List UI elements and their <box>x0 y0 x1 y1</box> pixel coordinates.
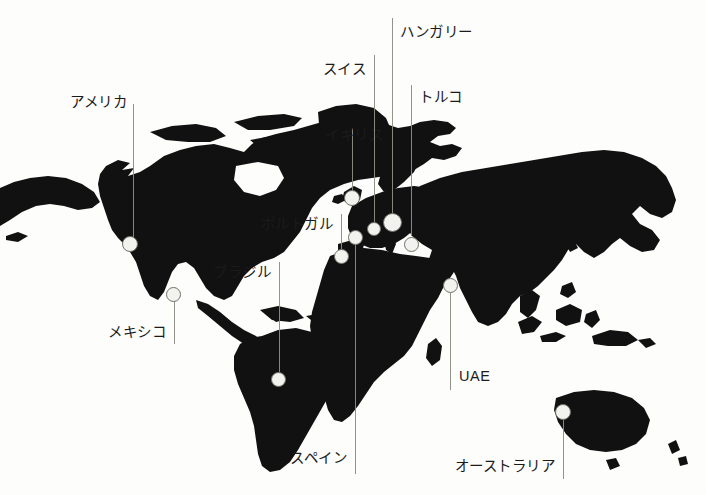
leader-line-america <box>133 104 134 238</box>
land-shapes <box>0 104 688 472</box>
map-label-turkey: トルコ <box>419 90 463 105</box>
map-label-uae: UAE <box>459 369 490 384</box>
leader-line-portugal <box>341 214 342 249</box>
australia <box>554 390 650 452</box>
map-label-spain: スペイン <box>290 451 347 466</box>
map-marker-australia[interactable] <box>555 404 571 420</box>
leader-line-mexico <box>174 300 175 344</box>
map-label-portugal: ポルトガル <box>261 217 334 232</box>
map-marker-mexico[interactable] <box>166 287 181 302</box>
sumatra <box>518 316 542 334</box>
map-marker-turkey[interactable] <box>404 237 419 252</box>
new-zealand-b <box>678 456 688 466</box>
map-marker-america[interactable] <box>122 236 138 252</box>
new-guinea <box>592 330 638 346</box>
map-label-mexico: メキシコ <box>108 325 166 340</box>
new-guinea-tail <box>638 338 656 348</box>
arctic-islands-b <box>234 114 302 130</box>
leader-line-hungary <box>392 18 393 213</box>
sulawesi <box>584 310 600 328</box>
leader-line-turkey <box>411 85 412 236</box>
arctic-islands-a <box>150 124 226 142</box>
leader-line-spain <box>355 244 356 474</box>
aleutians <box>6 232 28 242</box>
map-label-america: アメリカ <box>70 95 127 110</box>
leader-line-uae <box>450 293 451 390</box>
borneo <box>556 304 582 326</box>
map-marker-brazil[interactable] <box>271 372 286 387</box>
asia-mainland <box>404 150 676 326</box>
leader-line-brazil <box>279 262 280 372</box>
map-label-hungary: ハンガリー <box>400 25 473 40</box>
map-marker-uk[interactable] <box>344 190 360 206</box>
madagascar <box>426 338 442 366</box>
world-map-figure: アメリカメキシコブラジルポルトガルイギリススペインスイスハンガリートルコUAEオ… <box>0 0 706 495</box>
map-label-swiss: スイス <box>323 62 367 77</box>
map-marker-swiss[interactable] <box>367 222 381 236</box>
map-marker-hungary[interactable] <box>383 213 402 232</box>
map-marker-uae[interactable] <box>443 278 458 293</box>
alaska <box>0 176 100 226</box>
leader-line-swiss <box>374 55 375 222</box>
map-marker-portugal[interactable] <box>334 249 349 264</box>
philippines <box>560 282 576 298</box>
leader-line-australia <box>563 420 564 479</box>
map-label-australia: オーストラリア <box>455 459 556 474</box>
africa <box>310 248 448 422</box>
map-label-brazil: ブラジル <box>213 265 271 280</box>
java <box>540 332 566 342</box>
new-zealand-a <box>668 440 680 454</box>
map-marker-spain[interactable] <box>348 230 363 245</box>
tasmania <box>606 458 620 470</box>
